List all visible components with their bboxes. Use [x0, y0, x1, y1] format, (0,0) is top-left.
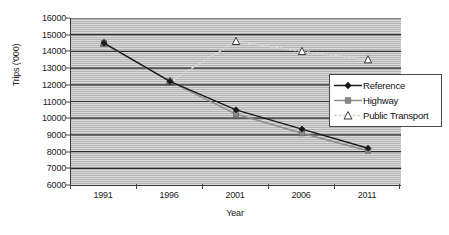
y-tick-label: 9000 [26, 130, 66, 139]
legend-marker-icon [333, 79, 363, 92]
x-tick-mark [399, 184, 400, 189]
legend-item-reference[interactable]: Reference [333, 78, 439, 93]
x-tick-mark [202, 184, 203, 189]
x-axis-title: Year [70, 208, 400, 218]
y-tick-label: 6000 [26, 181, 66, 190]
legend-item-public-transport[interactable]: Public Transport [333, 108, 439, 123]
y-tick-label: 7000 [26, 164, 66, 173]
x-tick-mark [136, 184, 137, 189]
y-axis-title: Trips ('000) [11, 5, 21, 125]
x-axis-ticks: 19911996200120062011 [70, 190, 400, 204]
data-point-marker [232, 37, 239, 44]
legend-label: Public Transport [363, 110, 428, 121]
chart-legend: ReferenceHighwayPublic Transport [329, 74, 442, 127]
x-tick-mark [70, 184, 71, 189]
legend-label: Reference [363, 80, 405, 91]
legend-marker-icon [333, 94, 363, 107]
x-tick-label: 2006 [271, 190, 331, 201]
y-tick-label: 14000 [26, 47, 66, 56]
x-tick-label: 2001 [205, 190, 265, 201]
y-tick-label: 16000 [26, 14, 66, 23]
y-tick-label: 10000 [26, 114, 66, 123]
y-tick-label: 11000 [26, 97, 66, 106]
x-tick-label: 1991 [73, 190, 133, 201]
line-chart: Trips ('000) 160001500014000130001200011… [0, 0, 449, 235]
y-tick-label: 13000 [26, 64, 66, 73]
data-point-marker [364, 56, 371, 63]
x-tick-label: 1996 [139, 190, 199, 201]
y-tick-label: 12000 [26, 80, 66, 89]
x-tick-label: 2011 [337, 190, 397, 201]
legend-label: Highway [363, 95, 398, 106]
y-tick-label: 15000 [26, 30, 66, 39]
legend-marker-icon [333, 109, 363, 122]
x-tick-mark [334, 184, 335, 189]
y-tick-label: 8000 [26, 147, 66, 156]
x-tick-mark [268, 184, 269, 189]
y-axis-ticks: 1600015000140001300012000110001000090008… [26, 12, 66, 186]
legend-item-highway[interactable]: Highway [333, 93, 439, 108]
